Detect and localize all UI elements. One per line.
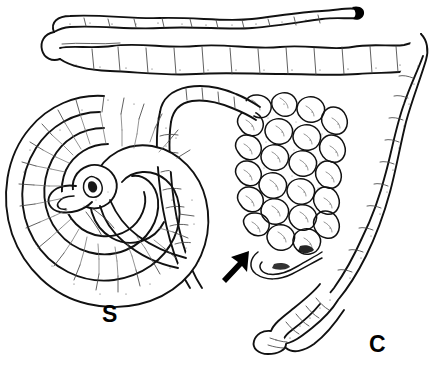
spiral-colon xyxy=(6,96,208,307)
intestinal-tract-drawing xyxy=(0,0,431,367)
figure-canvas: S C xyxy=(0,0,431,367)
label-caecum: C xyxy=(369,333,386,356)
arrow-icon xyxy=(222,251,249,283)
label-spiral-colon: S xyxy=(102,303,117,326)
caecum xyxy=(254,284,344,354)
folded-tube xyxy=(42,6,424,75)
coiled-small-intestine xyxy=(233,93,355,279)
